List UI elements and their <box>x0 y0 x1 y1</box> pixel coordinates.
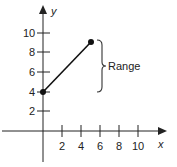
x-tick-label: 4 <box>78 140 84 152</box>
endpoint-end <box>88 39 94 45</box>
range-label: Range <box>108 60 140 72</box>
x-tick-label: 6 <box>97 140 103 152</box>
x-tick-label: 10 <box>132 140 144 152</box>
x-ticks: 2 4 6 8 10 <box>59 125 144 152</box>
segment-line <box>43 42 91 92</box>
series-segment <box>40 39 94 95</box>
y-tick-label: 6 <box>29 66 35 78</box>
y-tick-label: 4 <box>29 86 35 98</box>
y-axis-arrow-icon <box>39 5 47 14</box>
x-axis-arrow-icon <box>158 127 167 135</box>
range-brace: Range <box>97 40 140 92</box>
y-tick-label: 10 <box>23 27 35 39</box>
range-graph: x y 2 4 6 8 10 2 4 6 8 10 Range <box>0 0 177 167</box>
x-tick-label: 8 <box>116 140 122 152</box>
x-axis-label: x <box>157 138 164 150</box>
y-ticks: 2 4 6 8 10 <box>23 27 50 117</box>
y-axis-label: y <box>50 5 58 17</box>
y-tick-label: 2 <box>29 105 35 117</box>
x-tick-label: 2 <box>59 140 65 152</box>
y-tick-label: 8 <box>29 46 35 58</box>
brace-icon <box>97 40 106 92</box>
endpoint-start <box>40 89 46 95</box>
